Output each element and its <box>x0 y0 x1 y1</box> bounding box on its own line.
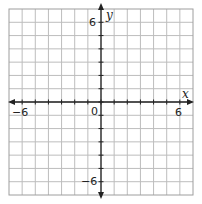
y-axis <box>98 3 104 199</box>
y-axis-up-arrow-icon <box>98 3 104 10</box>
x-pos-6-label: 6 <box>175 106 182 119</box>
x-axis-label: x <box>182 87 189 101</box>
y-neg-6-label: −6 <box>81 175 97 188</box>
y-axis-label: y <box>105 8 113 22</box>
y-pos-6-label: 6 <box>89 16 96 29</box>
x-neg-6-label: −6 <box>12 106 28 119</box>
origin-label: 0 <box>91 105 98 118</box>
coordinate-plane: y x 0 −6 6 6 −6 <box>0 0 202 204</box>
